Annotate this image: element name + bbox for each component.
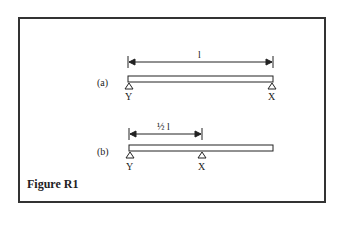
support-label-y-b: Y	[126, 161, 133, 172]
figure-caption: Figure R1	[27, 177, 78, 192]
support-label-x-a: X	[268, 91, 275, 102]
support-y-b-icon	[126, 152, 134, 158]
dimension-label-a: l	[198, 49, 201, 60]
diagram-label-a: (a)	[97, 77, 108, 88]
support-x-b-icon	[198, 152, 206, 158]
support-x-a-icon	[268, 83, 276, 89]
dimension-label-b: ½ l	[157, 121, 170, 132]
support-label-x-b: X	[198, 161, 205, 172]
support-label-y-a: Y	[125, 91, 132, 102]
diagram-label-b: (b)	[97, 146, 109, 157]
beam-b	[129, 145, 273, 151]
support-y-a-icon	[125, 83, 133, 89]
beam-a	[128, 76, 273, 82]
